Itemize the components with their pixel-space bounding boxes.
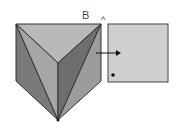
diagram-canvas: B ^ — [0, 0, 179, 127]
folded-prism — [16, 24, 101, 122]
caret-icon: ^ — [101, 15, 106, 25]
label-b: B — [82, 9, 89, 21]
bottom-vertex-dot — [57, 119, 60, 122]
corner-dot — [111, 73, 115, 77]
